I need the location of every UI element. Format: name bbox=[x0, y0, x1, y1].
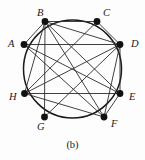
graph-vertex-c[interactable] bbox=[94, 18, 101, 25]
vertex-label-h: H bbox=[9, 92, 17, 103]
vertex-label-g: G bbox=[37, 122, 45, 133]
graph-edge bbox=[45, 45, 121, 118]
vertex-label-c: C bbox=[103, 8, 110, 19]
graph-canvas bbox=[0, 0, 145, 140]
edge-layer bbox=[24, 22, 120, 118]
graph-vertex-h[interactable] bbox=[21, 90, 28, 97]
graph-edge bbox=[24, 45, 104, 118]
graph-edge bbox=[45, 22, 46, 118]
figure-container: ABCDEFGH (b) bbox=[0, 0, 145, 160]
graph-vertex-g[interactable] bbox=[41, 114, 48, 121]
figure-caption: (b) bbox=[0, 139, 145, 150]
vertex-label-b: B bbox=[37, 8, 43, 19]
vertex-label-f: F bbox=[111, 119, 117, 130]
graph-vertex-b[interactable] bbox=[42, 18, 49, 25]
vertex-label-a: A bbox=[8, 39, 14, 50]
graph-vertex-a[interactable] bbox=[21, 41, 28, 48]
vertex-label-d: D bbox=[131, 39, 139, 50]
graph-vertex-f[interactable] bbox=[101, 114, 108, 121]
vertex-label-e: E bbox=[129, 92, 135, 103]
graph-vertex-d[interactable] bbox=[117, 41, 124, 48]
graph-vertex-e[interactable] bbox=[117, 90, 124, 97]
